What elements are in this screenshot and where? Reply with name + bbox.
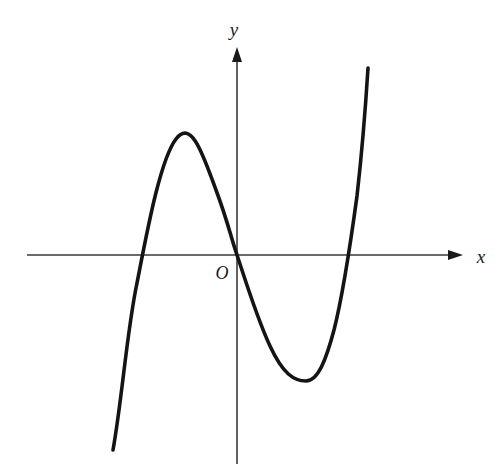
x-axis-label: x (476, 246, 486, 267)
figure-container: x y O (0, 0, 497, 476)
origin-label: O (216, 263, 229, 283)
graph-canvas: x y O (0, 0, 497, 476)
y-axis-label: y (228, 19, 239, 40)
canvas-background (0, 0, 497, 476)
